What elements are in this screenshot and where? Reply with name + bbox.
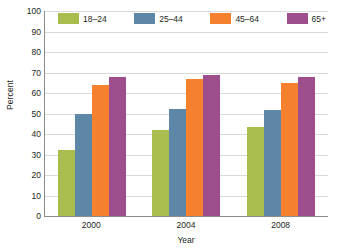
x-axis-title: Year [44, 235, 328, 245]
bar-group-2008 [247, 11, 315, 216]
bar-chart: Percent 0102030405060708090100 200020042… [0, 0, 337, 251]
legend-swatch-icon [134, 13, 155, 24]
y-axis-tick-label: 20 [32, 170, 41, 180]
legend-item-18–24[interactable]: 18–24 [58, 13, 107, 24]
y-axis-tick-label: 70 [32, 68, 41, 78]
plot-area: 0102030405060708090100 [44, 11, 328, 217]
bar-2008-25–44 [264, 110, 281, 216]
legend-item-45–64[interactable]: 45–64 [210, 13, 259, 24]
legend-label: 45–64 [235, 14, 259, 24]
y-axis-tick-label: 0 [36, 211, 41, 221]
y-axis-tick-label: 10 [32, 191, 41, 201]
y-axis-tick-label: 50 [32, 109, 41, 119]
bar-group-2004 [152, 11, 220, 216]
y-axis-tick-label: 60 [32, 88, 41, 98]
bar-groups [45, 11, 328, 216]
legend-label: 18–24 [83, 14, 107, 24]
y-axis-tick-label: 90 [32, 27, 41, 37]
bar-2004-18–24 [152, 130, 169, 216]
y-axis-tick-label: 80 [32, 47, 41, 57]
x-axis-tick-label: 2008 [271, 220, 290, 230]
bar-2004-45–64 [186, 79, 203, 216]
y-axis-tick-label: 100 [27, 6, 41, 16]
legend-swatch-icon [287, 13, 308, 24]
legend-label: 65+ [312, 14, 326, 24]
bar-2004-25–44 [169, 109, 186, 216]
bar-2000-18–24 [58, 150, 75, 216]
bar-2000-45–64 [92, 85, 109, 216]
legend-swatch-icon [58, 13, 79, 24]
x-axis-tick-label: 2004 [177, 220, 196, 230]
cropped-title-remnant [0, 0, 337, 3]
bar-group-2000 [58, 11, 126, 216]
bar-2000-65+ [109, 77, 126, 216]
legend: 18–2425–4445–6465+ [58, 13, 326, 24]
y-axis-tick-label: 30 [32, 150, 41, 160]
legend-swatch-icon [210, 13, 231, 24]
y-axis-tick-label: 40 [32, 129, 41, 139]
bar-2008-65+ [298, 77, 315, 216]
bar-2008-45–64 [281, 83, 298, 216]
x-axis-ticks: 200020042008 [44, 220, 328, 230]
bar-2000-25–44 [75, 114, 92, 217]
bar-2004-65+ [203, 75, 220, 216]
legend-label: 25–44 [159, 14, 183, 24]
legend-item-65+[interactable]: 65+ [287, 13, 326, 24]
y-axis-title: Percent [5, 65, 15, 125]
x-axis-tick-label: 2000 [82, 220, 101, 230]
legend-item-25–44[interactable]: 25–44 [134, 13, 183, 24]
bar-2008-18–24 [247, 127, 264, 216]
